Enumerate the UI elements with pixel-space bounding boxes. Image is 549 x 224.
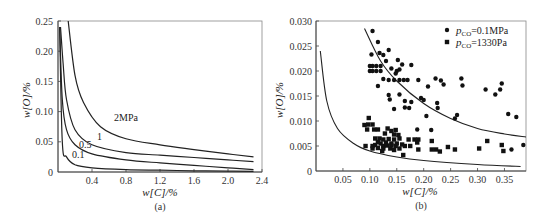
- circle-marker: [386, 78, 390, 82]
- chart-b-y-tick-label: 0: [307, 166, 312, 177]
- square-marker: [392, 137, 396, 141]
- circle-marker: [376, 40, 380, 44]
- square-marker: [393, 128, 397, 132]
- chart-a-caption: (a): [154, 201, 165, 213]
- square-marker: [366, 122, 370, 126]
- circle-marker: [392, 107, 396, 111]
- chart-b-x-tick-label: 0.05: [334, 174, 352, 185]
- square-marker: [393, 144, 397, 148]
- circle-marker: [370, 29, 374, 33]
- chart-a-curve-2mpa: [68, 21, 253, 157]
- chart-a-curve-label: 0.5: [79, 139, 92, 150]
- circle-marker: [402, 78, 406, 82]
- circle-marker: [369, 52, 373, 56]
- square-marker: [376, 127, 380, 131]
- chart-a-x-tick-label: 0.8: [120, 175, 133, 186]
- chart-a-x-tick-label: 0.4: [86, 175, 99, 186]
- chart-b-curves: [320, 29, 526, 167]
- circle-marker: [370, 64, 374, 68]
- circle-marker: [381, 77, 385, 81]
- circle-marker: [384, 59, 388, 63]
- circle-marker: [416, 78, 420, 82]
- circle-marker: [392, 78, 396, 82]
- chart-a: 00.050.100.150.200.25 0.40.81.21.62.02.4…: [20, 16, 268, 214]
- square-marker: [415, 140, 419, 144]
- square-marker: [380, 149, 384, 153]
- chart-a-y-tick-label: 0.20: [36, 46, 54, 57]
- chart-b-y-tick-label: 0.015: [290, 91, 313, 102]
- square-marker: [376, 146, 380, 150]
- square-marker: [446, 145, 450, 149]
- chart-b-y-tick-label: 0.025: [290, 41, 313, 52]
- square-marker: [401, 153, 405, 157]
- circle-marker: [421, 98, 425, 102]
- square-marker: [403, 144, 407, 148]
- circle-marker: [435, 106, 439, 110]
- circle-marker: [409, 63, 413, 67]
- square-marker: [406, 137, 410, 141]
- square-marker: [392, 132, 396, 136]
- square-marker: [501, 149, 505, 153]
- square-marker: [370, 146, 374, 150]
- circle-marker: [374, 64, 378, 68]
- square-marker: [500, 143, 504, 147]
- circle-marker: [506, 112, 510, 116]
- chart-b-caption: (b): [415, 200, 427, 212]
- circle-marker: [453, 116, 457, 120]
- chart-b-x-tick-label: 0.30: [469, 174, 487, 185]
- circle-marker: [407, 106, 411, 110]
- square-marker: [453, 147, 457, 151]
- circle-marker: [460, 83, 464, 87]
- chart-b-x-tick-label: 0.35: [496, 174, 514, 185]
- chart-b-y-axis-label: w[O]/%: [273, 82, 285, 118]
- square-marker: [430, 147, 434, 151]
- chart-a-curve-label: 1: [97, 131, 102, 142]
- circle-marker: [500, 81, 504, 85]
- chart-a-x-axis-label: w[C]/%: [142, 186, 177, 198]
- chart-b-y-tick-label: 0.010: [290, 116, 313, 127]
- circle-marker: [405, 78, 409, 82]
- circle-marker: [493, 92, 497, 96]
- circle-marker: [386, 93, 390, 97]
- chart-a-x-tick-label: 2.0: [222, 175, 235, 186]
- legend-square-icon: [445, 40, 449, 44]
- square-marker: [430, 139, 434, 143]
- circle-marker: [378, 69, 382, 73]
- square-marker: [434, 147, 438, 151]
- square-marker: [397, 146, 401, 150]
- square-marker: [370, 122, 374, 126]
- chart-b-x-tick-label: 0.25: [442, 174, 460, 185]
- chart-b-y-tick-label: 0.020: [290, 66, 313, 77]
- circle-marker: [439, 78, 443, 82]
- square-marker: [408, 144, 412, 148]
- circle-marker: [389, 66, 393, 70]
- circle-marker: [441, 82, 445, 86]
- circle-marker: [426, 84, 430, 88]
- square-marker: [438, 149, 442, 153]
- circle-marker: [498, 87, 502, 91]
- chart-a-x-tick-label: 1.6: [188, 175, 201, 186]
- chart-a-y-tick-label: 0.05: [36, 136, 54, 147]
- circle-marker: [397, 92, 401, 96]
- circle-marker: [377, 51, 381, 55]
- circle-marker: [429, 128, 433, 132]
- chart-b-x-tick-label: 0.15: [388, 174, 406, 185]
- chart-b-legend: pCO=0.1MPapCO=1330Pa: [445, 24, 509, 51]
- chart-b-x-tick-label: 0.20: [415, 174, 433, 185]
- square-marker: [372, 127, 376, 131]
- circle-marker: [370, 69, 374, 73]
- circle-marker: [376, 84, 380, 88]
- chart-b-x-tick-label: 0.10: [361, 174, 379, 185]
- circle-marker: [400, 62, 404, 66]
- circle-marker: [374, 69, 378, 73]
- square-marker: [385, 126, 389, 130]
- circle-marker: [397, 78, 401, 82]
- chart-b-y-tick-label: 0.030: [290, 16, 313, 27]
- square-marker: [362, 123, 366, 127]
- chart-b: 00.0050.0100.0150.0200.0250.030 0.050.10…: [273, 16, 526, 213]
- chart-a-x-tick-label: 2.4: [256, 175, 269, 186]
- chart-b-y-ticks: 00.0050.0100.0150.0200.0250.030: [290, 16, 320, 177]
- chart-b-x-axis-label: w[C]/%: [402, 185, 437, 197]
- chart-a-y-axis-label: w[O]/%: [20, 82, 32, 118]
- circle-marker: [459, 76, 463, 80]
